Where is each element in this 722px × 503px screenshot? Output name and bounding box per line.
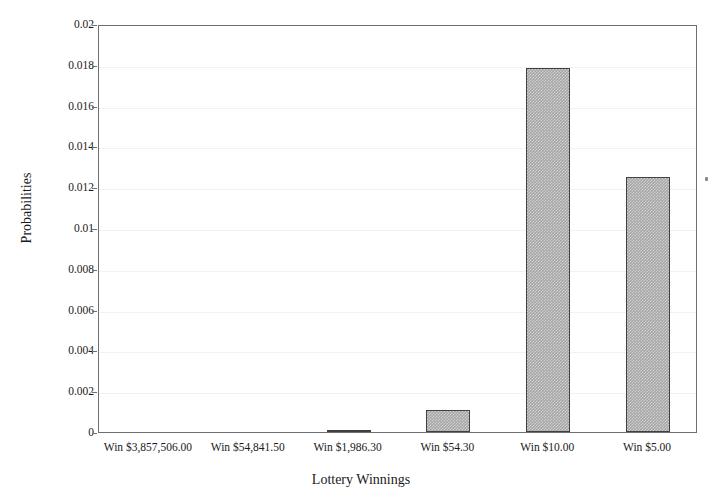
y-axis-tick-mark: [92, 351, 97, 352]
x-axis-title: Lottery Winnings: [0, 472, 722, 488]
gridline: [99, 393, 696, 394]
x-axis-tick-label: Win $3,857,506.00: [98, 441, 198, 454]
x-axis-tick-label: Win $5.00: [597, 441, 697, 454]
y-axis-tick-mark: [92, 311, 97, 312]
y-axis-tick-label: 0.004: [10, 345, 94, 357]
x-axis-tick-label: Win $54.30: [398, 441, 498, 454]
gridline: [99, 271, 696, 272]
gridline: [99, 108, 696, 109]
y-axis-tick-mark: [92, 107, 97, 108]
y-axis-tick-label: 0: [10, 427, 94, 439]
x-axis-tick-label: Win $54,841.50: [198, 441, 298, 454]
gridline: [99, 189, 696, 190]
y-axis-tick-mark: [92, 270, 97, 271]
bar: [426, 410, 470, 432]
bar: [526, 68, 570, 432]
y-axis-tick-label: 0.002: [10, 386, 94, 398]
scan-artifact-speckle: [705, 177, 708, 181]
y-axis-title: Probabilities: [19, 128, 35, 288]
plot-area: [98, 25, 697, 433]
x-axis-tick-label: Win $10.00: [497, 441, 597, 454]
gridline: [99, 67, 696, 68]
y-axis-tick-mark: [92, 433, 97, 434]
y-axis-tick-label: 0.02: [10, 19, 94, 31]
y-axis-tick-mark: [92, 188, 97, 189]
gridline: [99, 148, 696, 149]
gridline: [99, 312, 696, 313]
y-axis-tick-mark: [92, 392, 97, 393]
bar: [327, 430, 371, 432]
bar-chart-figure: 00.0020.0040.0060.0080.010.0120.0140.016…: [0, 0, 722, 503]
y-axis-tick-mark: [92, 229, 97, 230]
gridline: [99, 230, 696, 231]
y-axis-tick-label: 0.016: [10, 101, 94, 113]
y-axis-tick-mark: [92, 147, 97, 148]
gridline: [99, 352, 696, 353]
x-axis-tick-label: Win $1,986.30: [298, 441, 398, 454]
y-axis-tick-label: 0.006: [10, 305, 94, 317]
y-axis-tick-mark: [92, 66, 97, 67]
y-axis-tick-mark: [92, 25, 97, 26]
y-axis-tick-label: 0.018: [10, 60, 94, 72]
bar: [626, 177, 670, 432]
